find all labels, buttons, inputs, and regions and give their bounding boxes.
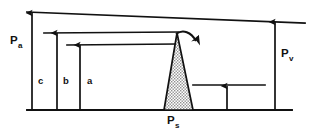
stenosis-pressure-label: P <box>167 114 175 126</box>
diagram-canvas: P a P v P s c b a <box>0 0 316 129</box>
venous-pressure-label: P <box>281 47 289 59</box>
top-sloping-line <box>27 12 305 23</box>
third-level-line <box>67 44 176 45</box>
segment-label-b: b <box>63 75 69 86</box>
venous-pressure-subscript: v <box>289 54 294 63</box>
pressure-diagram-figure: P a P v P s c b a <box>0 0 316 129</box>
segment-label-a: a <box>87 75 93 86</box>
stenosis-pressure-subscript: s <box>175 121 180 129</box>
arterial-pressure-label: P <box>10 34 18 46</box>
segment-label-c: c <box>38 75 43 86</box>
arterial-pressure-subscript: a <box>18 41 23 50</box>
second-level-line <box>44 32 178 33</box>
